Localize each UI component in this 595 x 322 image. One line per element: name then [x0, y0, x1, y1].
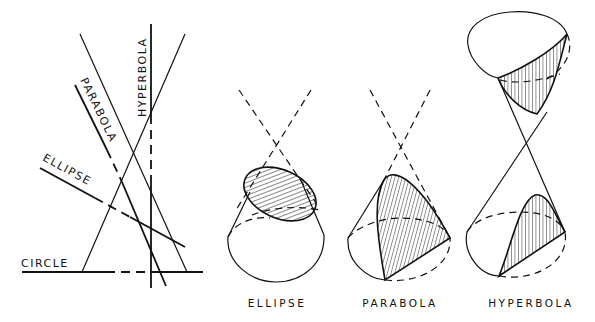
cone-generator-right	[82, 34, 185, 272]
hyperbola-section-lower	[499, 195, 565, 276]
hyperbola-label: HYPERBOLA	[136, 37, 149, 117]
parabola-cone: PARABOLA	[348, 90, 450, 309]
ellipse-caption: ELLIPSE	[248, 297, 307, 309]
hyperbola-caption: HYPERBOLA	[488, 297, 574, 309]
parabola-section	[377, 175, 450, 280]
cutting-planes-panel: CIRCLE ELLIPSE PARABOLA HYPERBOLA	[21, 24, 203, 288]
hyperbola-plane: HYPERBOLA	[136, 24, 151, 288]
circle-label: CIRCLE	[21, 257, 69, 270]
ellipse-cone: ELLIPSE	[228, 90, 325, 309]
conic-sections-diagram: CIRCLE ELLIPSE PARABOLA HYPERBOLA	[0, 0, 595, 322]
parabola-caption: PARABOLA	[362, 297, 437, 309]
ellipse-plane: ELLIPSE	[40, 151, 185, 247]
hyperbola-cone: HYPERBOLA	[466, 12, 573, 309]
circle-plane: CIRCLE	[21, 257, 203, 272]
